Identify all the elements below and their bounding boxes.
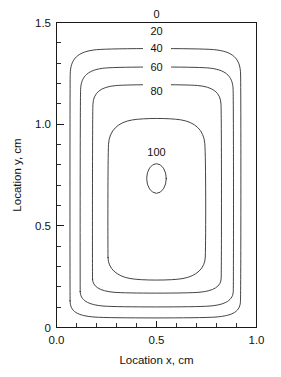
x-tick-labels: 0.0 0.5 1.0 xyxy=(49,334,265,346)
contour-plot-figure: 0 20 40 60 80 100 0 0.5 1.0 1.5 0.0 0.5 … xyxy=(0,0,281,377)
contour-plot-svg: 0 20 40 60 80 100 0 0.5 1.0 1.5 0.0 0.5 … xyxy=(0,0,281,377)
contour-labels: 0 20 40 60 80 100 xyxy=(140,8,174,159)
contour-line-100 xyxy=(147,164,167,194)
contour-line-60 xyxy=(92,85,221,293)
y-axis-ticks xyxy=(57,23,64,328)
contour-label-40: 40 xyxy=(150,42,162,54)
y-axis-label: Location y, cm xyxy=(11,138,23,211)
x-tick-label-0-0: 0.0 xyxy=(49,334,65,346)
contour-line-40 xyxy=(80,67,233,307)
y-tick-label-0: 0 xyxy=(45,322,51,334)
x-axis-label: Location x, cm xyxy=(119,354,193,366)
x-tick-label-1-0: 1.0 xyxy=(249,334,265,346)
y-tick-label-1-5: 1.5 xyxy=(35,17,51,29)
contour-label-80: 80 xyxy=(150,85,162,97)
contour-line-80 xyxy=(108,118,206,280)
contour-label-100: 100 xyxy=(147,146,165,158)
contour-label-60: 60 xyxy=(150,61,162,73)
contour-label-20: 20 xyxy=(150,25,162,37)
x-tick-label-0-5: 0.5 xyxy=(149,334,165,346)
x-axis-ticks xyxy=(57,321,257,328)
y-tick-label-1-0: 1.0 xyxy=(35,118,51,130)
y-tick-labels: 0 0.5 1.0 1.5 xyxy=(35,17,51,334)
y-tick-label-0-5: 0.5 xyxy=(35,220,51,232)
contour-label-0: 0 xyxy=(153,8,159,20)
